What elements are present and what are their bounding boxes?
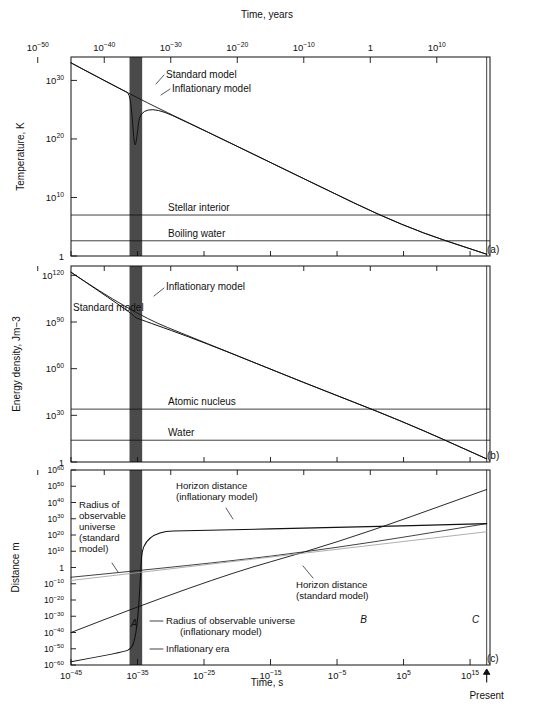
panel-tag-a: (a) — [487, 244, 499, 255]
y-tick-label-a: 1030 — [46, 74, 64, 86]
y-tick-label-a: 1010 — [46, 191, 64, 203]
bottom-axis-tick-label: 10−25 — [193, 669, 215, 681]
y-tick-label-c: 1060 — [48, 464, 65, 476]
y-tick-label-c: 10−40 — [44, 626, 65, 638]
y-tick-label-c: 10−60 — [44, 659, 65, 671]
curve-label-horizon-standard-c: Horizon distance(standard model) — [296, 579, 369, 601]
y-tick-label-b: 1060 — [46, 362, 64, 374]
y-tick-label-c: 10−30 — [44, 610, 65, 622]
reference-line-label-a: Boiling water — [168, 228, 226, 239]
y-tick-label-c: 10−50 — [44, 642, 65, 654]
point-marker-c: C — [472, 614, 480, 625]
bottom-axis-tick-label: 10−45 — [60, 669, 82, 681]
leader-horizon-inflationary-c — [226, 508, 233, 519]
bottom-axis-tick-label: 10−5 — [328, 669, 347, 681]
bottom-axis-title: Time, s — [251, 677, 283, 688]
leader-radius-standard-c — [112, 563, 118, 572]
panel-tag-b: (b) — [487, 450, 499, 461]
y-tick-label-b: 1090 — [46, 316, 64, 328]
top-axis-tick-label: 10−40 — [93, 41, 115, 53]
y-tick-label-c: 1020 — [48, 529, 65, 541]
present-arrow-head — [484, 669, 490, 674]
leader-inflationary-a — [161, 89, 170, 95]
leader-horizon-standard-c — [303, 566, 313, 578]
leader-standard-a — [156, 75, 164, 84]
inflationary-era-band — [130, 470, 143, 665]
bottom-axis-tick-label: 105 — [396, 669, 411, 681]
top-axis-tick-label: 10−30 — [160, 41, 182, 53]
top-axis-tick-label: 10−50 — [27, 41, 49, 53]
point-marker-a: A — [130, 618, 138, 629]
y-tick-label-a: 1020 — [46, 132, 64, 144]
present-label: Present — [469, 690, 504, 701]
y-tick-label-c: 10−20 — [44, 594, 65, 606]
y-tick-label-b: 1030 — [46, 409, 64, 421]
curve-label-inflationary-era-c: Inflationary era — [166, 643, 230, 654]
curve-label-horizon-inflationary-c: Horizon distance(inflationary model) — [176, 480, 258, 502]
y-tick-label-c: 1 — [59, 563, 64, 573]
y-tick-label-c: 1010 — [48, 545, 65, 557]
y-tick-label-c: 10−10 — [44, 577, 65, 589]
curve-label-radius-inflationary-c: Radius of observable universe(inflationa… — [166, 615, 295, 637]
curve-label-inflationary-model-a: Inflationary model — [172, 83, 251, 94]
y-tick-label-c: 1040 — [48, 496, 65, 508]
y-axis-title-c: Distance m — [10, 542, 21, 592]
top-axis-title: Time, years — [241, 9, 293, 20]
top-axis-tick-label: 10−20 — [226, 41, 248, 53]
y-tick-label-b: 10120 — [42, 269, 64, 281]
reference-line-label-b: Water — [168, 427, 195, 438]
curve-label-radius-standard-c: Radius ofobservableuniverse(standardmode… — [79, 499, 126, 554]
point-marker-b: B — [360, 614, 367, 625]
top-axis-tick-label: 10−10 — [293, 41, 315, 53]
panel-tag-c: (c) — [487, 653, 499, 664]
curve-label-standard-model-b: Standard model — [73, 302, 144, 313]
top-axis-tick-label: 1 — [368, 42, 373, 53]
curve-label-inflationary-model-b: Inflationary model — [166, 281, 245, 292]
y-axis-title-a: Temperature, K — [15, 122, 26, 191]
top-axis-tick-label: 1010 — [428, 41, 446, 53]
y-tick-label-c: 1030 — [48, 512, 65, 524]
inflationary-era-band — [130, 266, 143, 462]
bottom-axis-tick-label: 10−35 — [126, 669, 148, 681]
reference-line-label-b: Atomic nucleus — [168, 396, 236, 407]
y-axis-title-b: Energy density, Jm−3 — [11, 316, 22, 412]
inflationary-era-band — [130, 57, 143, 256]
leader-inflationary-b — [154, 288, 164, 296]
figure-cosmology-evolution: Time, years10−5010−4010−3010−2010−101101… — [0, 0, 534, 724]
y-tick-label-c: 1050 — [48, 480, 65, 492]
curve-label-standard-model-a: Standard model — [166, 69, 237, 80]
y-tick-label-a: 1 — [59, 251, 64, 262]
reference-line-label-a: Stellar interior — [168, 202, 230, 213]
bottom-axis-tick-label: 1015 — [461, 669, 479, 681]
